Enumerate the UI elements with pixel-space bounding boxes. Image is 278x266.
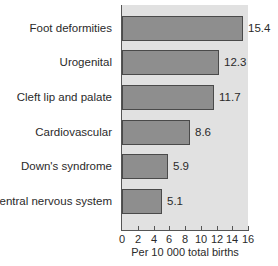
bar [122,120,190,145]
value-label: 12.3 [224,55,246,69]
category-label: Cleft lip and palate [17,90,112,104]
value-label: 8.6 [195,125,211,139]
horizontal-bar-chart: Foot deformitiesUrogenitalCleft lip and … [0,0,278,266]
x-tick [232,226,233,230]
category-label: Foot deformities [30,21,112,35]
value-label: 5.1 [167,194,183,208]
category-label: Down's syndrome [21,159,112,173]
bar [122,189,162,214]
bar [122,50,219,75]
x-tick [201,226,202,230]
category-label: Urogenital [60,55,112,69]
x-tick-label: 16 [238,233,258,245]
x-tick [217,226,218,230]
category-label: Cardiovascular [35,125,112,139]
x-tick [248,226,249,230]
x-axis-title: Per 10 000 total births [122,246,248,259]
x-tick [154,226,155,230]
x-tick [169,226,170,230]
bar [122,16,243,41]
value-label: 15.4 [248,21,270,35]
category-label: Central nervous system [0,194,112,208]
bar [122,154,168,179]
value-label: 5.9 [173,159,189,173]
y-axis-line [121,5,122,231]
x-axis-line [121,230,249,231]
bar [122,85,214,110]
x-tick [185,226,186,230]
x-tick [138,226,139,230]
value-label: 11.7 [219,90,241,104]
